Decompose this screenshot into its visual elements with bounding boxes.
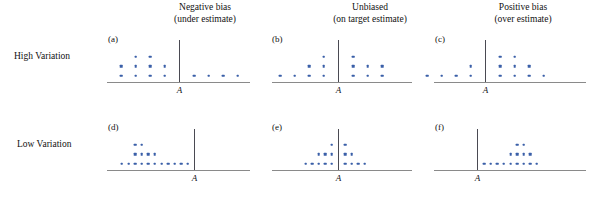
row-label-low-variation: Low Variation [17,139,71,149]
data-dot [134,143,137,146]
target-line-a [194,129,195,170]
data-dot [344,162,347,165]
data-dot [324,162,327,165]
data-dot [160,162,163,165]
data-dot [522,143,525,146]
data-dot [509,162,512,165]
data-dot [167,162,170,165]
dot-plot-panel-d: (d)A [107,0,250,197]
dot-plot-panel-e: (e)A [272,0,412,197]
data-dot [317,153,320,156]
data-dot [364,162,367,165]
data-dot [147,162,150,165]
data-dot [522,162,525,165]
data-dot [331,162,334,165]
data-dot [529,153,532,156]
data-dot [173,162,176,165]
data-dot [317,162,320,165]
data-dot [324,153,327,156]
data-dot [516,162,519,165]
data-dot [509,153,512,156]
data-dot [516,143,519,146]
data-dot [503,162,506,165]
panel-tag: (f) [435,122,444,132]
data-dot [496,162,499,165]
panel-baseline [107,170,250,171]
data-dot [344,153,347,156]
data-dot [522,153,525,156]
dot-plot-panel-f: (f)A [434,0,586,197]
data-dot [134,162,137,165]
data-dot [529,162,532,165]
panel-baseline [434,170,586,171]
row-label-high-variation: High Variation [14,51,70,61]
data-dot [304,162,307,165]
panel-baseline [272,170,412,171]
data-dot [350,153,353,156]
data-dot [127,162,130,165]
axis-label-a: A [475,173,481,183]
data-dot [331,153,334,156]
data-dot [180,162,183,165]
data-dot [121,162,124,165]
data-dot [483,162,486,165]
axis-label-a: A [192,173,198,183]
bias-variation-figure: Negative bias (under estimate) Unbiased … [0,0,598,197]
data-dot [536,162,539,165]
data-dot [489,162,492,165]
data-dot [357,162,360,165]
data-dot [140,153,143,156]
data-dot [426,74,429,77]
data-dot [311,162,314,165]
panel-tag: (e) [272,122,282,132]
target-line-a [477,129,478,170]
data-dot [154,153,157,156]
data-dot [187,162,190,165]
data-dot [147,153,150,156]
data-dot [140,143,143,146]
data-dot [516,153,519,156]
data-dot [331,143,334,146]
panel-tag: (d) [108,122,119,132]
data-dot [134,153,137,156]
data-dot [154,162,157,165]
data-dot [350,162,353,165]
data-dot [140,162,143,165]
data-dot [344,143,347,146]
axis-label-a: A [336,173,342,183]
target-line-a [338,129,339,170]
